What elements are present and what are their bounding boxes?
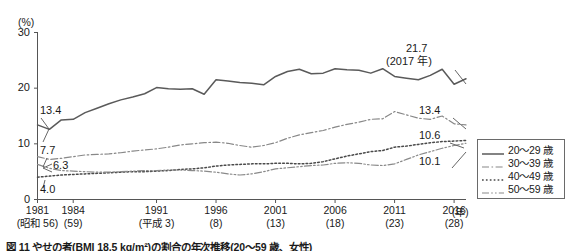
x-tick-label-year: 1996 [204, 204, 227, 216]
x-tick-label-era: (13) [247, 217, 305, 230]
series-line-solid [38, 69, 467, 130]
annotation-end-40-49: 10.6 [419, 129, 440, 141]
x-tick-label: 2011(23) [366, 204, 424, 230]
series-lines-group [38, 69, 467, 178]
series-line-dash-dot-dot [38, 143, 467, 175]
chart-legend: 20〜29 歳30〜39 歳40〜49 歳50〜59 歳 [477, 139, 565, 199]
x-tick-label-year: 2011 [383, 204, 406, 216]
annotation-start-40-49: 4.0 [40, 183, 55, 195]
annotation-end-50-59: 10.1 [419, 155, 440, 167]
x-tick-label-era: (23) [366, 217, 424, 230]
y-tick-label: 30 [6, 26, 30, 38]
x-tick-marks [38, 200, 455, 204]
x-tick-label-era: (平成 3) [128, 217, 186, 230]
x-tick-label: 2001(13) [247, 204, 305, 230]
annotation-start-50-59: 6.3 [53, 159, 68, 171]
x-tick-label-year: 2006 [323, 204, 346, 216]
y-tick-label: 20 [6, 81, 30, 93]
y-tick-label: 10 [6, 137, 30, 149]
x-tick-label-era: (59) [44, 217, 102, 230]
x-tick-label: 1996(8) [187, 204, 245, 230]
leader-line-end-50-59 [452, 152, 466, 168]
x-tick-label: 1984(59) [44, 204, 102, 230]
x-tick-label-year: 1984 [62, 204, 85, 216]
annotation-start-30-39: 7.7 [40, 144, 55, 156]
annotation-end-20-29-year: (2017 年) [386, 55, 432, 67]
label-leader-lines [41, 70, 466, 188]
annotation-end-30-39: 13.4 [419, 104, 440, 116]
annotation-end-20-29-value: 21.7 [406, 42, 427, 54]
figure-container: (%) 3020100 1981(昭和 56)1984(59)1991(平成 3… [0, 0, 570, 251]
x-tick-label-year: 2001 [264, 204, 287, 216]
annotation-start-20-29: 13.4 [40, 104, 61, 116]
legend-line-swatch [481, 171, 505, 181]
y-tick-label: 0 [6, 193, 30, 205]
x-tick-label: 1991(平成 3) [128, 204, 186, 230]
legend-line-swatch [481, 158, 505, 168]
legend-line-swatch [481, 184, 505, 194]
series-line-dash-dot [38, 112, 467, 160]
leader-line-start-20-29 [41, 118, 49, 142]
x-tick-label: 2006(18) [306, 204, 364, 230]
x-tick-label-year: 1991 [145, 204, 168, 216]
x-tick-label-era: (8) [187, 217, 245, 230]
legend-line-swatch [481, 145, 505, 155]
x-axis-unit-label: (年) [452, 204, 469, 219]
legend-item[interactable]: 50〜59 歳 [481, 182, 560, 195]
legend-item-label: 50〜59 歳 [508, 181, 553, 196]
leader-line-start-30-39 [43, 158, 47, 167]
y-tick-marks [34, 33, 38, 200]
figure-caption: 図 11 やせの者(BMI 18.5 kg/m²)の割合の年次推移(20〜59 … [6, 239, 566, 251]
x-tick-label-era: (18) [306, 217, 364, 230]
